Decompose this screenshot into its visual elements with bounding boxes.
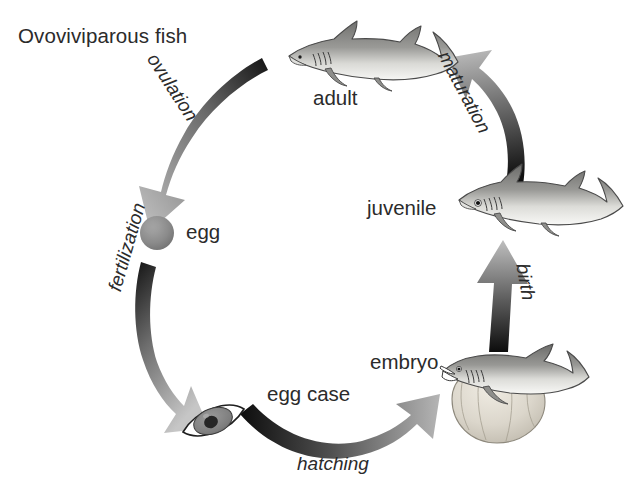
- juvenile-shark-icon: [459, 164, 623, 236]
- embryo-icon: [440, 344, 589, 443]
- stage-label-egg-case: egg case: [267, 384, 350, 405]
- adult-shark-icon: [289, 21, 458, 91]
- stage-label-embryo: embryo: [370, 352, 438, 373]
- transition-label-hatching: hatching: [297, 454, 369, 473]
- diagram-canvas: [0, 0, 640, 486]
- stage-label-juvenile: juvenile: [367, 198, 437, 219]
- stage-label-adult: adult: [313, 88, 357, 109]
- page-title: Ovoviviparous fish: [18, 26, 187, 47]
- egg-sphere-icon: [140, 216, 174, 250]
- arrow-fertilization: [135, 262, 209, 433]
- life-cycle-diagram: Ovoviviparous fish adult egg egg case em…: [0, 0, 640, 486]
- stage-label-egg: egg: [186, 222, 220, 243]
